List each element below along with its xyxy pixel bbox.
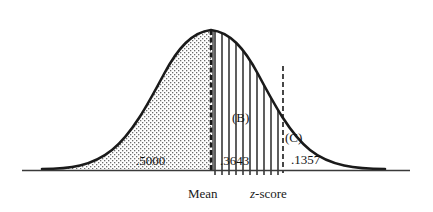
region-tag-c: (C) [285,130,302,146]
region-left-stippled [40,26,211,171]
area-value-left: .5000 [136,153,165,169]
region-tag-b: (B) [232,110,249,126]
hatch-lines [215,26,278,171]
area-value-middle: .3643 [220,153,249,169]
zscore-suffix: -score [255,186,287,201]
area-value-right: .1357 [291,152,320,168]
stipple-fill [40,26,211,171]
zscore-axis-label: z-score [250,186,287,202]
normal-distribution-figure [0,0,433,212]
region-middle-hatched [215,26,278,171]
mean-axis-label: Mean [188,186,218,202]
